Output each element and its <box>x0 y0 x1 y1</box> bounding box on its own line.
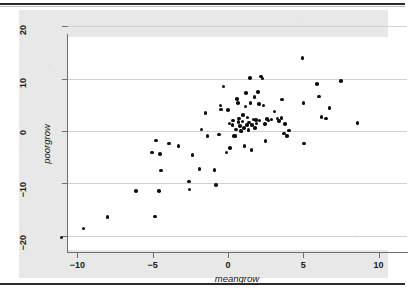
data-point <box>235 97 239 101</box>
gridline-y <box>68 131 407 132</box>
data-point <box>204 111 208 115</box>
y-tick-label: 20 <box>18 25 28 35</box>
x-tick-label: 5 <box>301 260 306 270</box>
data-point <box>253 95 257 99</box>
data-point <box>244 91 248 95</box>
data-point <box>236 101 240 105</box>
x-tick-label: 10 <box>374 260 384 270</box>
data-point <box>320 115 324 119</box>
bottom-divider-rule <box>0 283 405 285</box>
data-point <box>283 122 287 126</box>
y-tick-mark <box>62 79 68 80</box>
x-tick-mark <box>77 253 78 258</box>
data-point <box>226 108 230 112</box>
data-point <box>339 79 343 83</box>
x-tick-mark <box>379 253 380 258</box>
y-tick-mark <box>62 26 68 27</box>
y-tick-mark <box>62 131 68 132</box>
data-point <box>263 122 267 126</box>
data-point <box>287 129 291 133</box>
data-point <box>315 82 319 86</box>
plot-panel: 20100−10−20 −10−50510 poorgrow meangrow <box>19 10 388 278</box>
data-point <box>134 189 138 193</box>
y-axis-line <box>67 34 68 253</box>
data-point <box>257 102 261 106</box>
data-point <box>177 144 181 148</box>
data-point <box>153 215 157 219</box>
y-tick-label: 10 <box>18 78 28 88</box>
y-tick-label: −10 <box>18 182 28 197</box>
x-tick-mark <box>153 253 154 258</box>
data-point <box>248 76 252 80</box>
gridline-y <box>68 236 407 237</box>
data-point <box>60 236 64 240</box>
x-tick-label: −5 <box>148 260 158 270</box>
top-divider-rule <box>0 3 405 5</box>
data-point <box>317 95 321 99</box>
data-point <box>253 126 257 130</box>
x-tick-label: 0 <box>225 260 230 270</box>
data-point <box>214 183 218 187</box>
data-point <box>302 101 306 105</box>
y-tick-label: −20 <box>18 235 28 250</box>
data-point <box>249 101 253 105</box>
data-point <box>280 116 284 120</box>
data-point <box>324 117 328 121</box>
gridline-y <box>68 26 407 27</box>
data-point <box>213 168 217 172</box>
x-axis-line <box>67 252 408 253</box>
plot-area-background <box>68 37 407 250</box>
x-tick-mark <box>303 253 304 258</box>
data-point <box>242 126 246 130</box>
data-point <box>256 90 260 94</box>
gridline-y <box>68 79 407 80</box>
data-point <box>250 148 254 152</box>
y-axis-title: poorgrow <box>41 124 52 164</box>
data-point <box>157 189 161 193</box>
top-thin-rule <box>0 6 405 7</box>
data-point <box>206 134 210 138</box>
data-point <box>247 128 251 132</box>
data-point <box>106 215 110 219</box>
y-tick-mark <box>62 183 68 184</box>
data-point <box>285 134 289 138</box>
x-tick-mark <box>228 253 229 258</box>
x-tick-label: −10 <box>70 260 85 270</box>
data-point <box>150 151 154 155</box>
gridline-y <box>68 183 407 184</box>
data-point <box>158 152 162 156</box>
data-point <box>154 139 158 143</box>
data-point <box>198 167 202 171</box>
y-tick-label: 0 <box>18 130 28 135</box>
data-point <box>187 180 191 184</box>
data-point <box>241 113 245 117</box>
data-point <box>228 146 232 150</box>
data-point <box>159 169 163 173</box>
data-point <box>277 119 281 123</box>
